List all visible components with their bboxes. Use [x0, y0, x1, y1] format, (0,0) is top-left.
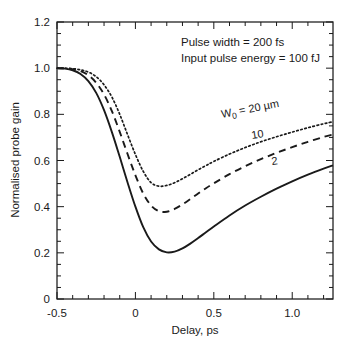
data-curves — [57, 68, 333, 252]
y-tick-labels: 00.20.40.60.81.01.2 — [34, 16, 51, 305]
y-tick-label: 0.2 — [34, 247, 50, 259]
x-tick-label: 0.5 — [206, 307, 222, 319]
annotation-input-energy: Input pulse energy = 100 fJ — [181, 52, 320, 64]
y-axis-title: Normalised probe gain — [9, 102, 21, 218]
curve-label-10: 10 — [250, 127, 264, 141]
svg-text:W0 = 20 µm: W0 = 20 µm — [220, 97, 280, 123]
x-tick-label: 1.0 — [284, 307, 300, 319]
y-tick-label: 1.2 — [34, 16, 50, 28]
y-tick-label: 1.0 — [34, 62, 50, 74]
y-tick-label: 0.4 — [34, 201, 51, 213]
curve-solid — [57, 68, 333, 252]
y-tick-label: 0.6 — [34, 155, 50, 167]
curve-dashed — [57, 68, 333, 212]
annotation-pulse-width: Pulse width = 200 fs — [181, 36, 284, 48]
y-tick-label: 0 — [44, 293, 50, 305]
curve-label-w0-20: W0 = 20 µm — [220, 97, 280, 123]
chart-svg: -0.500.51.0 00.20.40.60.81.01.2 Delay, p… — [0, 0, 351, 352]
chart-figure: -0.500.51.0 00.20.40.60.81.01.2 Delay, p… — [0, 0, 351, 352]
x-tick-label: 0 — [132, 307, 138, 319]
y-tick-label: 0.8 — [34, 108, 50, 120]
curve-dotted — [57, 68, 333, 186]
curve-label-2: 2 — [271, 154, 279, 167]
x-axis-title: Delay, ps — [171, 324, 218, 336]
curve-label-w0-rest: = 20 µm — [235, 97, 280, 117]
x-tick-labels: -0.500.51.0 — [47, 307, 300, 319]
x-tick-label: -0.5 — [47, 307, 67, 319]
